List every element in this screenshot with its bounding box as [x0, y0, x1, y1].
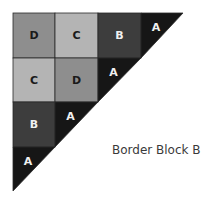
block-cell-label: A — [109, 66, 118, 79]
block-cell-label: A — [152, 21, 161, 34]
block-cell-a — [13, 147, 55, 191]
block-cell-label: C — [72, 29, 80, 42]
block-cell-label: B — [115, 29, 123, 42]
block-cell-a — [55, 102, 98, 147]
block-cell-label: D — [72, 74, 81, 87]
block-cell-label: C — [30, 74, 38, 87]
block-cell-label: A — [66, 110, 75, 123]
diagram-caption: Border Block B — [112, 143, 201, 157]
block-cell-a — [98, 58, 141, 102]
block-cell-label: A — [24, 155, 33, 168]
border-block-diagram: DCBACDABAA — [0, 0, 205, 203]
block-cell-a — [141, 13, 183, 58]
block-cell-label: B — [30, 118, 38, 131]
block-cell-label: D — [29, 29, 38, 42]
